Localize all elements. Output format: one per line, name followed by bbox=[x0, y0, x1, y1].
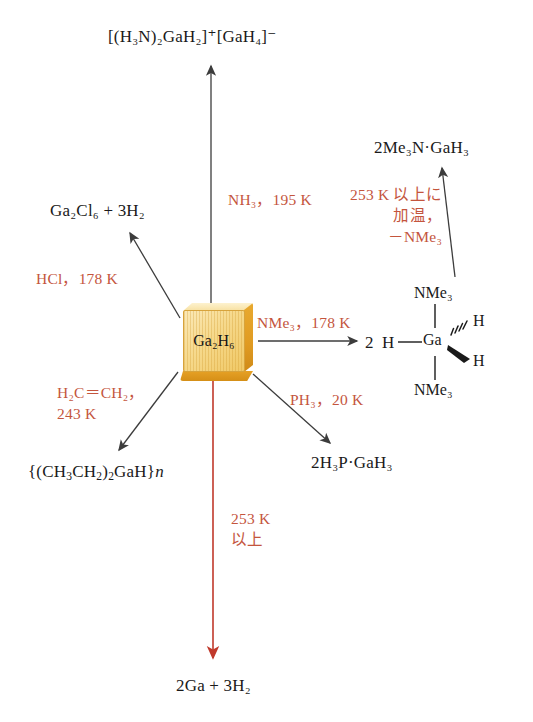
structure-ligand-bottom: NMe₃ bbox=[414, 381, 452, 399]
condition-upper-right: 253 K 以上に 加温， －NMe₃ bbox=[330, 185, 442, 248]
structure-ligand-top: NMe₃ bbox=[414, 284, 452, 302]
condition-upper-right-line1: 253 K 以上に bbox=[350, 186, 442, 203]
structure-h-hashed: H bbox=[473, 312, 485, 330]
reaction-scheme-diagram: Ga₂H₆ [(H₃N)₂GaH₂]⁺[GaH₄]⁻ Ga₂Cl₆ + 3H₂ … bbox=[0, 0, 533, 722]
condition-lower-left: H₂C＝CH₂， 243 K bbox=[57, 383, 144, 425]
product-lower-right: 2H₃P·GaH₃ bbox=[311, 452, 393, 474]
cube-side-face bbox=[244, 303, 253, 372]
product-upper-right: 2Me₃N·GaH₃ bbox=[374, 137, 469, 159]
product-top: [(H₃N)₂GaH₂]⁺[GaH₄]⁻ bbox=[108, 26, 276, 48]
structure-h-wedge: H bbox=[473, 352, 485, 370]
condition-bottom-line2: 以上 bbox=[231, 531, 263, 548]
condition-lower-right: PH₃，20 K bbox=[290, 390, 363, 411]
condition-lower-left-line1: H₂C＝CH₂， bbox=[57, 384, 144, 401]
ga-complex-structure: Ga NMe₃ NMe₃ H H bbox=[390, 282, 515, 404]
condition-bottom: 253 K 以上 bbox=[231, 509, 270, 551]
product-lower-left: {(CH3CH2)2GaH}n bbox=[28, 461, 164, 485]
cube-bottom-face bbox=[180, 371, 253, 381]
structure-coefficient: 2 bbox=[365, 333, 374, 352]
arrow-to-upper-right-product bbox=[442, 168, 455, 277]
condition-bottom-line1: 253 K bbox=[231, 510, 270, 527]
structure-center-atom: Ga bbox=[423, 331, 442, 349]
condition-upper-left: HCl，178 K bbox=[36, 269, 118, 290]
condition-upper-right-line2: 加温， bbox=[393, 207, 442, 224]
central-species-label: Ga₂H₆ bbox=[183, 310, 245, 372]
structure-bonds bbox=[390, 282, 515, 404]
central-species-cube: Ga₂H₆ bbox=[166, 303, 266, 391]
product-bottom: 2Ga + 3H₂ bbox=[176, 675, 251, 697]
condition-upper-right-line3: －NMe₃ bbox=[388, 228, 442, 245]
condition-lower-left-line2: 243 K bbox=[57, 405, 96, 422]
condition-top: NH₃，195 K bbox=[228, 190, 312, 211]
condition-right: NMe₃，178 K bbox=[257, 313, 351, 334]
product-upper-left: Ga₂Cl₆ + 3H₂ bbox=[50, 200, 145, 222]
